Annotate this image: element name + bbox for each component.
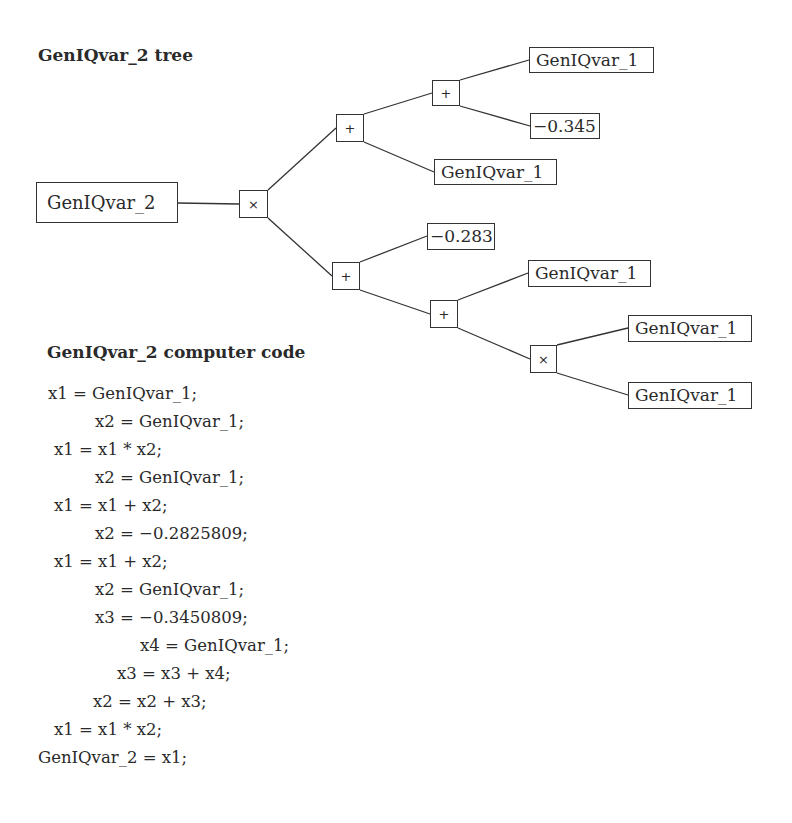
leaf-node: GenIQvar_1 — [628, 382, 752, 409]
multiply-op-node: × — [530, 345, 557, 373]
plus-op-node: + — [430, 300, 458, 328]
code-line: x2 = x2 + x3; — [93, 692, 207, 711]
code-line: x3 = x3 + x4; — [117, 664, 231, 683]
leaf-node: GenIQvar_1 — [628, 315, 752, 342]
code-line: GenIQvar_2 = x1; — [38, 748, 187, 767]
code-line: x2 = GenIQvar_1; — [95, 468, 244, 487]
code-line: x1 = x1 * x2; — [54, 720, 162, 739]
code-line: x1 = x1 * x2; — [54, 440, 162, 459]
code-line: x1 = GenIQvar_1; — [48, 384, 197, 403]
plus-op-node: + — [332, 262, 360, 290]
code-title: GenIQvar_2 computer code — [47, 342, 305, 362]
plus-op-node: + — [336, 114, 364, 142]
code-line: x2 = −0.2825809; — [95, 524, 248, 543]
leaf-node: GenIQvar_1 — [434, 159, 557, 185]
leaf-node: GenIQvar_1 — [529, 47, 654, 73]
leaf-node: GenIQvar_1 — [528, 260, 651, 287]
leaf-node: −0.345 — [530, 113, 600, 139]
plus-op-node: + — [432, 80, 460, 106]
root-node: GenIQvar_2 — [36, 182, 178, 223]
code-line: x2 = GenIQvar_1; — [95, 412, 244, 431]
leaf-node: −0.283 — [427, 223, 495, 250]
code-line: x3 = −0.3450809; — [95, 608, 248, 627]
code-line: x4 = GenIQvar_1; — [140, 636, 289, 655]
code-line: x1 = x1 + x2; — [54, 552, 168, 571]
code-line: x1 = x1 + x2; — [54, 496, 168, 515]
code-line: x2 = GenIQvar_1; — [95, 580, 244, 599]
multiply-op-node: × — [239, 190, 268, 218]
